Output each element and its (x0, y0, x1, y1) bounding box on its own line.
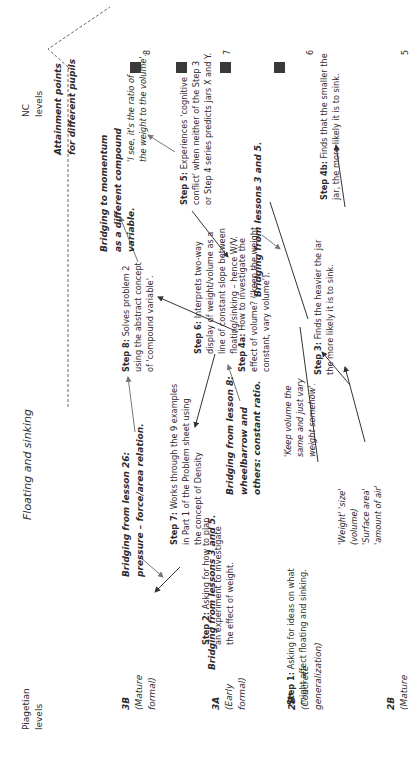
bridge-line: pressure – force/area relation. (134, 423, 148, 577)
level-code: 3A (210, 677, 223, 710)
step-label: Step 5: (179, 172, 189, 205)
quote-line: weight somehow'. (306, 378, 318, 457)
page-title: Floating and sinking (22, 409, 34, 520)
quote-line: 'Weight' 'size' (336, 485, 348, 545)
quote-line: 'amount of air' (372, 485, 384, 545)
diagram-stage: Piagetian levels Floating and sinking NC… (0, 0, 419, 767)
quote-line: (volume) (348, 485, 360, 545)
quote-keep-volume: 'Keep volume the same and just vary weig… (282, 378, 318, 457)
bridge-lessons-3-5-left: Bridging from lessons 3 and 5. (206, 514, 220, 670)
step-line: Works through the 9 examples (169, 384, 179, 512)
step-5: Step 5: Experiences 'cognitive conflict'… (178, 53, 214, 205)
nc-level-7: 7 (222, 50, 234, 55)
heading-line: levels (33, 688, 46, 730)
nc-marker-7b (220, 62, 231, 73)
quote-ratio: 'I see, it's the ratio of the weight to … (125, 54, 149, 162)
quote-line: 'I see, it's the ratio of (125, 54, 137, 162)
step-line: Experiences 'cognitive (179, 77, 189, 172)
level-line: (Mature (398, 675, 411, 710)
step-label: Step 1: (286, 672, 296, 705)
bridge-line: Bridging from lesson 8: (224, 376, 238, 495)
level-line: formal) (236, 677, 249, 710)
quote-ideas: 'Weight' 'size' (volume) 'Surface area' … (336, 485, 384, 545)
step-line: Finds that the smaller the (319, 53, 329, 161)
nc-level-5: 5 (400, 50, 412, 55)
label-line: for different pupils (66, 59, 80, 155)
bridge-lesson-8: Bridging from lesson 8: wheelbarrow and … (224, 376, 265, 495)
quote-line: 'Keep volume the (282, 378, 294, 457)
step-line: Interprets two-way (193, 241, 203, 321)
step-label: Step 8: (121, 339, 131, 372)
step-line: jar, the more likely it is to sink. (330, 53, 342, 200)
step-line: Asking for ideas on what (286, 568, 296, 672)
bridge-lesson-26: Bridging from lesson 26: pressure – forc… (120, 423, 147, 577)
step-line: Finds the heavier the jar (313, 240, 323, 342)
step-4b: Step 4b: Finds that the smaller the jar,… (318, 53, 342, 200)
step-1: Step 1: Asking for ideas on what might a… (285, 568, 309, 705)
step-line: Solves problem 2 (121, 265, 131, 339)
step-line: the effect of weight. (224, 518, 236, 645)
level-line: generalization) (312, 642, 325, 710)
level-line: (Mature (133, 675, 146, 710)
step-line: floating/sinking – hence W/V. (228, 228, 240, 354)
bridge-line: Bridging to momentum (98, 128, 112, 252)
nc-level-6: 6 (305, 50, 317, 55)
step-line: or Step 4 series predicts jars X and Y. (202, 53, 214, 205)
bridge-line: others: constant ratio. (251, 376, 265, 495)
step-6: Step 6: Interprets two-way display of we… (192, 228, 240, 354)
step-7: Step 7: Works through the 9 examples in … (168, 384, 204, 545)
level-3b: 3B (Mature formal) (120, 675, 159, 710)
step-label: Step 6: (193, 321, 203, 354)
label-line: Attainment points (52, 59, 66, 155)
step-line: line of constant slope between (216, 228, 228, 354)
bridge-line: wheelbarrow and (238, 376, 252, 495)
step-line: of 'compound variable'. (144, 262, 156, 372)
level-line: (Early (223, 677, 236, 710)
piagetian-levels-heading: Piagetian levels (20, 688, 46, 730)
attainment-label: Attainment points for different pupils (52, 59, 79, 155)
heading-line: levels (33, 91, 46, 117)
nc-levels-heading: NC levels (20, 91, 46, 117)
level-code: 3B (120, 675, 133, 710)
step-line: might affect floating and sinking. (297, 568, 309, 705)
bridge-line: as a different compound (112, 128, 126, 252)
step-label: Step 7: (169, 512, 179, 545)
step-line: using the abstract concept (132, 262, 144, 372)
step-line: in Part 1 of the Problem sheet using (180, 384, 192, 545)
level-line: formal) (146, 675, 159, 710)
level-3a: 3A (Early formal) (210, 677, 249, 710)
quote-line: 'Surface area' (360, 485, 372, 545)
bridge-lessons-3-5-right: Bridging from lessons 3 and 5. (252, 141, 266, 297)
step-line: display of weight/volume as a (204, 228, 216, 354)
step-3: Step 3: Finds the heavier the jar the mo… (312, 240, 336, 375)
quote-line: same and just vary (294, 378, 306, 457)
step-label: Step 3: (313, 342, 323, 375)
step-line: the concept of Density (192, 384, 204, 545)
level-code: 2B (385, 675, 398, 710)
step-line: the more likely it is to sink. (324, 240, 336, 375)
nc-marker-6 (274, 62, 285, 73)
bridge-line: Bridging from lesson 26: (120, 423, 134, 577)
heading-line: Piagetian (20, 688, 33, 730)
heading-line: NC (20, 91, 33, 117)
quote-line: the weight to the volume'. (137, 54, 149, 162)
step-8: Step 8: Solves problem 2 using the abstr… (120, 262, 156, 372)
step-line: conflict' when neither of the Step 3 (190, 53, 202, 205)
step-label: Step 4b: (319, 161, 329, 200)
level-2b: 2B (Mature (385, 675, 411, 710)
